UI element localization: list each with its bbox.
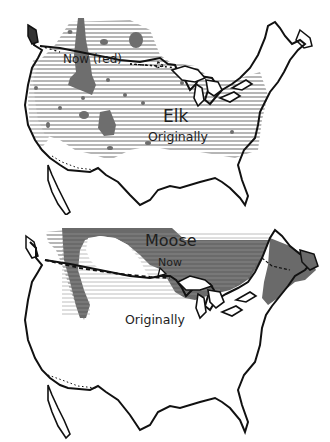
moose-range-map: Moose Now Originally	[0, 210, 330, 442]
elk-title-label: Elk	[163, 108, 188, 125]
moose-now-label: Now	[158, 257, 182, 268]
moose-title-label: Moose	[145, 233, 197, 249]
elk-range-map: Now (red) Elk Originally	[0, 0, 330, 215]
baja-outline-elk	[48, 165, 70, 215]
moose-original-label: Originally	[125, 314, 185, 327]
moose-northeast-range	[262, 238, 316, 305]
elk-now-label: Now (red)	[63, 53, 122, 65]
baja-outline-moose	[48, 385, 70, 438]
vancouver-island-elk	[28, 25, 38, 44]
elk-original-label: Originally	[148, 131, 208, 144]
